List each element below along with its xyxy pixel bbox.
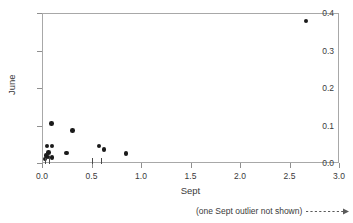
y-tick-label: 0.3 <box>322 46 334 55</box>
data-point <box>50 155 55 160</box>
x-tick-mark <box>42 163 43 168</box>
data-point <box>70 128 75 133</box>
x-tick-mark <box>290 163 291 168</box>
dashed-arrow-icon <box>306 207 350 216</box>
scatter-plot-figure: June Sept (one Sept outlier not shown) 0… <box>0 0 353 223</box>
y-tick-label: 0.0 <box>322 159 334 168</box>
y-tick-mark <box>37 13 42 14</box>
x-tick-label: 2.5 <box>284 172 296 181</box>
x-tick-mark <box>191 163 192 168</box>
x-tick-mark <box>240 163 241 168</box>
x-tick-label: 1.0 <box>135 172 147 181</box>
data-point <box>45 144 50 149</box>
outlier-annotation-label: (one Sept outlier not shown) <box>196 207 302 216</box>
y-axis <box>0 0 42 223</box>
data-point <box>64 151 69 156</box>
data-point <box>97 144 102 149</box>
plot-area <box>42 13 339 163</box>
y-tick-label: 0.4 <box>322 9 334 18</box>
y-tick-mark <box>37 88 42 89</box>
y-tick-mark <box>37 126 42 127</box>
y-axis-title: June <box>7 61 17 109</box>
x-tick-mark <box>141 163 142 168</box>
x-tick-label: 3.0 <box>333 172 345 181</box>
data-point <box>50 144 55 149</box>
rug-mark <box>49 158 50 164</box>
data-point <box>49 121 54 126</box>
x-tick-mark <box>339 163 340 168</box>
y-tick-label: 0.1 <box>322 121 334 130</box>
data-point <box>46 150 51 155</box>
y-tick-label: 0.2 <box>322 84 334 93</box>
x-tick-label: 2.0 <box>234 172 246 181</box>
rug-mark <box>45 158 46 164</box>
x-tick-label: 1.5 <box>185 172 197 181</box>
data-point <box>102 147 107 152</box>
data-point <box>124 151 129 156</box>
outlier-annotation: (one Sept outlier not shown) <box>196 205 350 217</box>
x-tick-label: 0.5 <box>86 172 98 181</box>
rug-mark <box>101 158 102 164</box>
x-tick-label: 0.0 <box>36 172 48 181</box>
rug-mark <box>92 158 93 164</box>
x-axis-title: Sept <box>42 186 339 196</box>
y-tick-mark <box>37 51 42 52</box>
data-point <box>304 19 309 24</box>
